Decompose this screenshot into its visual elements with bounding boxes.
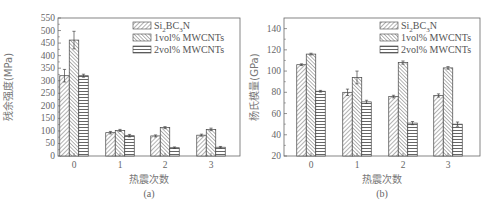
y-tick-label: 450 — [41, 38, 56, 48]
bar — [170, 148, 180, 156]
y-tick-label: 100 — [41, 126, 56, 136]
y-axis-label: 残余强度(MPa) — [2, 53, 14, 121]
bar — [389, 97, 399, 156]
legend-swatch — [380, 22, 398, 29]
y-tick-label: 550 — [41, 13, 56, 23]
y-tick-label: 120 — [267, 45, 282, 55]
bar — [343, 92, 353, 156]
y-tick-label: 80 — [272, 87, 282, 97]
bar — [408, 123, 418, 156]
x-tick-label: 3 — [209, 160, 214, 170]
legend-swatch — [380, 46, 398, 53]
bar — [69, 40, 79, 156]
y-tick-label: 0 — [50, 151, 55, 161]
y-tick-label: 60 — [272, 109, 282, 119]
bar — [352, 77, 362, 156]
figure: 0501001502002503003504004505005500123残余强… — [0, 0, 485, 204]
y-tick-label: 400 — [41, 51, 56, 61]
legend-swatch — [380, 34, 398, 41]
bar — [206, 129, 216, 156]
bar — [125, 136, 135, 156]
bar — [398, 63, 408, 156]
legend: Si2BC3N1vol% MWCNTs2vol% MWCNTs — [133, 20, 224, 55]
legend-label: 2vol% MWCNTs — [401, 44, 471, 55]
y-tick-label: 50 — [46, 138, 56, 148]
x-tick-label: 0 — [309, 160, 314, 170]
bar — [434, 95, 444, 156]
subfigure-caption: (b) — [376, 188, 388, 200]
legend: Si2BC3N1vol% MWCNTs2vol% MWCNTs — [380, 20, 471, 55]
bar — [197, 135, 207, 156]
bar — [443, 68, 453, 156]
bar — [453, 124, 463, 156]
legend-label: 2vol% MWCNTs — [154, 44, 224, 55]
legend-label: 1vol% MWCNTs — [401, 32, 471, 43]
bar — [362, 102, 372, 156]
bar — [106, 133, 116, 156]
x-tick-label: 1 — [118, 160, 123, 170]
x-tick-label: 2 — [401, 160, 406, 170]
bar — [297, 65, 307, 156]
bar — [160, 128, 170, 156]
bar — [60, 76, 70, 156]
y-tick-label: 100 — [267, 66, 282, 76]
y-tick-label: 140 — [267, 24, 282, 34]
bar — [151, 136, 161, 156]
x-tick-label: 1 — [355, 160, 360, 170]
x-tick-label: 2 — [163, 160, 168, 170]
y-tick-label: 150 — [41, 113, 56, 123]
chart-b-youngs-modulus: 204060801001201400123杨氏模量(GPa)热震次数(b)Si2… — [248, 18, 480, 200]
legend-label: 1vol% MWCNTs — [154, 32, 224, 43]
y-tick-label: 350 — [41, 63, 56, 73]
x-axis-label: 热震次数 — [362, 173, 402, 185]
legend-swatch — [133, 46, 151, 53]
legend-swatch — [133, 34, 151, 41]
legend-swatch — [133, 22, 151, 29]
x-tick-label: 0 — [72, 160, 77, 170]
subfigure-caption: (a) — [143, 188, 154, 200]
bar — [306, 54, 316, 156]
y-tick-label: 300 — [41, 76, 56, 86]
bar — [79, 76, 89, 156]
x-tick-label: 3 — [446, 160, 451, 170]
y-axis-label: 杨氏模量(GPa) — [248, 53, 260, 120]
bar — [115, 130, 125, 156]
y-tick-label: 40 — [272, 130, 282, 140]
x-axis-label: 热震次数 — [129, 173, 169, 185]
y-tick-label: 20 — [272, 151, 282, 161]
bar — [316, 91, 326, 156]
y-tick-label: 500 — [41, 26, 56, 36]
y-tick-label: 200 — [41, 101, 56, 111]
y-tick-label: 250 — [41, 88, 56, 98]
bar — [216, 147, 226, 156]
chart-a-residual-strength: 0501001502002503003504004505005500123残余强… — [2, 13, 240, 200]
